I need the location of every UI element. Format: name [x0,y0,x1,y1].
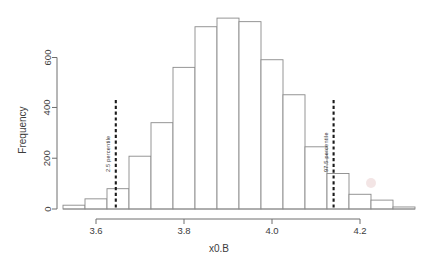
histogram-bar [151,123,173,209]
x-tick-label: 4.2 [353,225,366,236]
histogram-bar [371,200,393,209]
histogram-bar [239,22,261,209]
image-artifact-smudge [366,178,376,188]
y-axis: 0200400600 [42,50,58,212]
histogram-bar [63,205,85,209]
lower-percentile-label: 2.5 percentile [105,136,111,172]
histogram-bar [195,27,217,209]
histogram-bar [283,95,305,209]
y-tick-label: 600 [42,50,53,66]
histogram-bar [261,60,283,209]
histogram-bar [85,199,107,209]
upper-percentile-label: 97.5 percentile [323,132,329,172]
y-tick-label: 200 [42,150,53,166]
x-tick-label: 3.8 [177,225,190,236]
plot-canvas: 0200400600 3.63.84.04.2 2.5 percentile97… [0,0,422,265]
histogram-bar [173,67,195,209]
y-tick-label: 0 [42,206,53,211]
histogram-bar [349,194,371,209]
x-axis: 3.63.84.04.2 [89,219,366,236]
x-axis-title: x0.B [209,243,229,254]
x-tick-label: 4.0 [265,225,278,236]
histogram-bar [129,156,151,209]
histogram-bar [107,189,129,209]
y-tick-label: 400 [42,100,53,116]
histogram-bar [217,18,239,209]
histogram-plot: 0200400600 3.63.84.04.2 2.5 percentile97… [0,0,422,265]
y-axis-title: Frequency [17,106,28,153]
histogram-bar [327,173,349,209]
x-tick-label: 3.6 [89,225,102,236]
